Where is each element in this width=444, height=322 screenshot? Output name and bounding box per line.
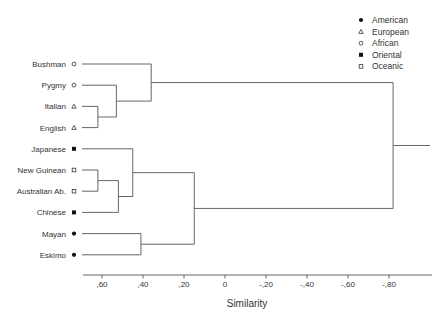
- leaf-label: English: [40, 124, 66, 133]
- merge-m5: [82, 181, 118, 213]
- legend-item: European: [359, 27, 409, 37]
- leaf-label: Bushman: [32, 60, 66, 69]
- x-tick-label: ,40: [137, 280, 149, 289]
- dendrogram-branches: [82, 64, 430, 255]
- leaf-chinese: Chinese: [37, 208, 76, 217]
- filled-circle-icon: [359, 18, 363, 22]
- open-triangle-icon: [72, 104, 76, 108]
- merge-m2: [82, 85, 116, 117]
- dendrogram-chart: AmericanEuropeanAfricanOrientalOceanic B…: [0, 0, 444, 322]
- x-tick: ,40: [137, 275, 149, 289]
- x-tick: ,20: [178, 275, 190, 289]
- x-tick: -,60: [341, 275, 355, 289]
- x-tick: ,60: [96, 275, 108, 289]
- merge-m9: [151, 83, 393, 209]
- x-tick: -,20: [259, 275, 273, 289]
- filled-square-icon: [359, 53, 363, 57]
- open-circle-icon: [72, 62, 76, 66]
- legend-label: African: [372, 38, 399, 48]
- legend-label: American: [372, 15, 408, 25]
- filled-square-icon: [72, 147, 76, 151]
- merge-m8: [133, 173, 195, 245]
- legend-item: Oceanic: [359, 61, 404, 71]
- filled-square-icon: [72, 210, 76, 214]
- x-tick-label: -,80: [382, 280, 396, 289]
- legend-item: American: [359, 15, 408, 25]
- leaf-english: English: [40, 124, 76, 133]
- x-tick-label: -,60: [341, 280, 355, 289]
- open-square-icon: [72, 168, 76, 172]
- x-tick-label: 0: [223, 280, 228, 289]
- open-triangle-icon: [359, 29, 363, 33]
- leaf-italian: Italian: [45, 102, 77, 111]
- x-tick: 0: [223, 275, 228, 289]
- leaf-new-guinean: New Guinean: [18, 166, 76, 175]
- merge-m1: [82, 106, 98, 127]
- legend-label: Oceanic: [372, 61, 404, 71]
- leaf-japanese: Japanese: [31, 145, 76, 154]
- open-circle-icon: [359, 41, 363, 45]
- leaf-label: Japanese: [31, 145, 66, 154]
- leaf-pygmy: Pygmy: [42, 81, 76, 90]
- x-axis: ,60,40,200-,20-,40-,60-,80: [83, 275, 432, 289]
- x-tick-label: -,40: [300, 280, 314, 289]
- open-square-icon: [359, 65, 363, 69]
- open-circle-icon: [72, 83, 76, 87]
- x-tick-label: -,20: [259, 280, 273, 289]
- legend-label: European: [372, 27, 409, 37]
- filled-circle-icon: [72, 253, 76, 257]
- x-tick: -,40: [300, 275, 314, 289]
- merge-m7: [82, 234, 141, 255]
- leaf-label: Italian: [45, 102, 66, 111]
- legend: AmericanEuropeanAfricanOrientalOceanic: [359, 15, 409, 71]
- leaf-label: Chinese: [37, 208, 67, 217]
- leaf-label: Mayan: [42, 230, 66, 239]
- legend-item: Oriental: [359, 50, 402, 60]
- leaf-labels: BushmanPygmyItalianEnglishJapaneseNew Gu…: [17, 60, 77, 260]
- open-triangle-icon: [72, 125, 76, 129]
- leaf-mayan: Mayan: [42, 230, 76, 239]
- x-axis-title: Similarity: [227, 298, 268, 309]
- filled-circle-icon: [72, 232, 76, 236]
- leaf-label: Australian Ab.: [17, 187, 66, 196]
- open-square-icon: [72, 189, 76, 193]
- leaf-label: Eskimo: [40, 251, 67, 260]
- leaf-bushman: Bushman: [32, 60, 76, 69]
- legend-item: African: [359, 38, 399, 48]
- legend-label: Oriental: [372, 50, 402, 60]
- merge-m6: [82, 149, 133, 197]
- leaf-eskimo: Eskimo: [40, 251, 76, 260]
- x-tick-label: ,60: [96, 280, 108, 289]
- x-tick: -,80: [382, 275, 396, 289]
- leaf-label: New Guinean: [18, 166, 66, 175]
- merge-m4: [82, 170, 98, 191]
- leaf-label: Pygmy: [42, 81, 66, 90]
- x-tick-label: ,20: [178, 280, 190, 289]
- leaf-australian-ab: Australian Ab.: [17, 187, 76, 196]
